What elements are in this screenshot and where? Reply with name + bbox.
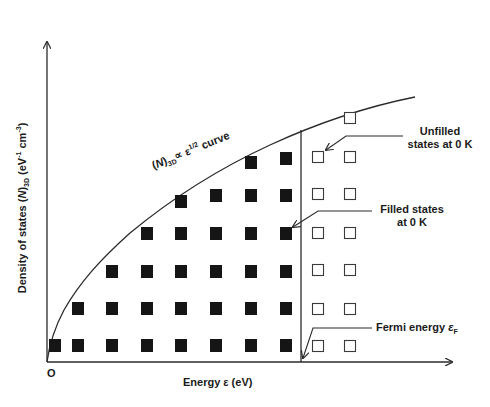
fermi-energy-label: Fermi energy εF bbox=[376, 321, 458, 334]
unfilled-states-label: Unfilled states at 0 K bbox=[398, 125, 482, 151]
filled-states-label: Filled states at 0 K bbox=[372, 203, 452, 229]
filled-states bbox=[49, 152, 292, 352]
unfilled-states bbox=[313, 113, 356, 352]
y-axis-label: Density of states (N)3D (eV-1 cm-3) bbox=[16, 108, 28, 308]
origin-label: O bbox=[47, 367, 56, 380]
filled-leader bbox=[293, 211, 372, 227]
unfilled-leader bbox=[326, 136, 403, 150]
dos-diagram: Density of states (N)3D (eV-1 cm-3) (N)3… bbox=[0, 0, 490, 407]
dos-curve bbox=[47, 97, 415, 362]
x-axis-label: Energy ε (eV) bbox=[183, 376, 252, 389]
